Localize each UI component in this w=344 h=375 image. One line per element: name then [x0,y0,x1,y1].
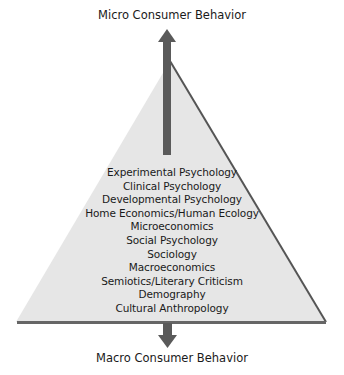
discipline-item: Semiotics/Literary Criticism [0,275,344,289]
arrow-down-icon [158,323,177,348]
discipline-item: Microeconomics [0,220,344,234]
discipline-item: Home Economics/Human Ecology [0,207,344,221]
discipline-item: Developmental Psychology [0,193,344,207]
discipline-item: Macroeconomics [0,261,344,275]
discipline-item: Demography [0,288,344,302]
discipline-item: Social Psychology [0,234,344,248]
micro-consumer-behavior-label: Micro Consumer Behavior [0,8,344,22]
discipline-item: Cultural Anthropology [0,302,344,316]
disciplines-list: Experimental Psychology Clinical Psychol… [0,166,344,316]
discipline-item: Clinical Psychology [0,180,344,194]
discipline-item: Sociology [0,248,344,262]
discipline-item: Experimental Psychology [0,166,344,180]
macro-consumer-behavior-label: Macro Consumer Behavior [0,351,344,365]
